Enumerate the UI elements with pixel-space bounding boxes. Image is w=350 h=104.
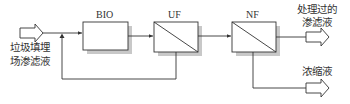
permeate-output-arrow-icon [306,28,329,46]
uf-label: UF [168,8,181,21]
concentrate-label: 浓缩液 [302,65,332,78]
input-label-line1: 垃圾填埋 [10,41,50,54]
bio-label: BIO [96,8,113,21]
nf-membrane-box [232,22,280,56]
permeate-label-line1: 处理过的 [297,3,337,16]
input-arrow-icon [20,24,43,42]
edge-nf-concentrate [253,52,306,88]
uf-membrane-box [154,22,202,56]
permeate-label-line2: 渗滤液 [302,16,332,29]
nf-label: NF [246,8,259,21]
concentrate-output-arrow-icon [306,79,329,97]
input-label-line2: 场渗滤液 [10,55,50,68]
bio-box [83,22,132,54]
